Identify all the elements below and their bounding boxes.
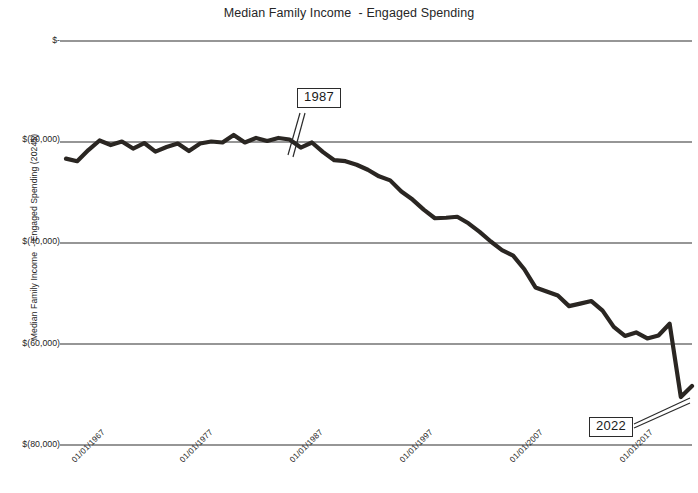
- data-line-series-0: [66, 135, 692, 397]
- callout-1987: 1987: [297, 88, 341, 108]
- leader-line-2022: [634, 398, 690, 424]
- leader-line-1987-b: [293, 113, 305, 157]
- leader-line-1987: [288, 113, 300, 155]
- callout-2022: 2022: [589, 417, 633, 437]
- chart-container: Median Family Income - Engaged Spending …: [0, 0, 698, 493]
- leader-line-2022-b: [634, 403, 690, 428]
- gridlines: [60, 41, 692, 445]
